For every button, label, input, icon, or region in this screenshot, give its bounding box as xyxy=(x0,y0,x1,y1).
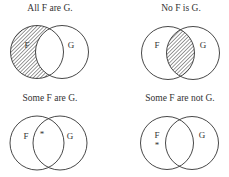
panel-some-f-are-g xyxy=(10,116,87,170)
caption-all-f-are-g: All F are G. xyxy=(27,3,72,13)
panel-all-f-are-g xyxy=(11,26,89,79)
existence-marker: * xyxy=(155,140,160,150)
caption-some-f-are-g: Some F are G. xyxy=(23,93,78,103)
label-f: F xyxy=(154,40,159,50)
existence-marker: * xyxy=(40,129,45,139)
caption-some-f-are-not-g: Some F are not G. xyxy=(145,93,214,103)
circle-f xyxy=(10,116,64,170)
label-f: F xyxy=(24,40,29,50)
label-g: G xyxy=(199,130,206,140)
label-g: G xyxy=(67,131,74,141)
venn-diagrams xyxy=(0,0,229,177)
circle-g xyxy=(166,117,219,170)
circle-g xyxy=(33,116,87,170)
label-f: F xyxy=(154,130,159,140)
panel-no-f-is-g xyxy=(142,27,220,80)
circle-f xyxy=(141,117,194,170)
caption-no-f-is-g: No F is G. xyxy=(161,3,201,13)
label-g: G xyxy=(68,40,75,50)
label-f: F xyxy=(23,131,28,141)
label-g: G xyxy=(200,40,207,50)
panel-some-f-are-not-g xyxy=(141,117,219,170)
